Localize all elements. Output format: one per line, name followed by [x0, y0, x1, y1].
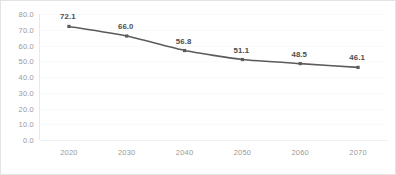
x-axis-tick-label: 2040 [176, 148, 194, 157]
data-point-marker [183, 49, 186, 52]
y-axis-tick-label: 70.0 [19, 25, 34, 34]
y-axis: 80.070.060.050.040.030.020.010.00.0 [1, 14, 36, 140]
data-point-marker [125, 34, 128, 37]
data-point-label: 51.1 [234, 46, 250, 55]
y-axis-tick-label: 0.0 [23, 136, 34, 145]
series-line [69, 26, 358, 67]
y-axis-line [39, 14, 40, 140]
data-point-label: 56.8 [176, 37, 192, 46]
data-point-marker [356, 66, 359, 69]
data-point-label: 72.1 [60, 12, 76, 21]
gridline [40, 140, 387, 141]
y-axis-tick-label: 10.0 [19, 120, 34, 129]
x-axis: 202020302040205020602070 [40, 148, 387, 164]
x-axis-tick-label: 2020 [60, 148, 78, 157]
y-axis-tick-label: 20.0 [19, 104, 34, 113]
y-axis-tick-label: 50.0 [19, 57, 34, 66]
x-axis-tick-label: 2070 [349, 148, 367, 157]
chart-canvas: 72.166.056.851.148.546.1 80.070.060.050.… [0, 0, 396, 175]
data-point-label: 48.5 [291, 50, 307, 59]
y-axis-tick-label: 60.0 [19, 41, 34, 50]
data-point-marker [241, 58, 244, 61]
x-axis-tick-label: 2060 [292, 148, 310, 157]
y-axis-tick-label: 80.0 [19, 10, 34, 19]
line-series [40, 14, 387, 140]
data-point-label: 66.0 [118, 22, 134, 31]
y-axis-tick-label: 40.0 [19, 73, 34, 82]
x-axis-tick-label: 2030 [118, 148, 136, 157]
data-point-label: 46.1 [349, 53, 365, 62]
data-point-marker [299, 62, 302, 65]
plot-area: 72.166.056.851.148.546.1 [40, 14, 387, 140]
y-axis-tick-label: 30.0 [19, 88, 34, 97]
data-point-marker [67, 25, 70, 28]
x-axis-tick-label: 2050 [234, 148, 252, 157]
